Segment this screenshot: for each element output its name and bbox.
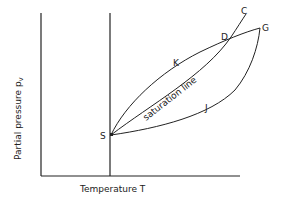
- y-axis-label: Partial pressure pv: [13, 77, 25, 160]
- label-G: G: [262, 23, 269, 33]
- diagram-canvas: S K D C G J saturation line Temperature …: [0, 0, 284, 202]
- label-C: C: [241, 6, 247, 16]
- y-axis-label-subscript: v: [17, 77, 25, 81]
- label-S: S: [100, 131, 106, 141]
- label-saturation-line: saturation line: [141, 74, 199, 122]
- label-K: K: [173, 58, 180, 68]
- x-axis-label: Temperature T: [79, 184, 146, 194]
- point-S-marker: [110, 133, 113, 136]
- label-J: J: [204, 103, 208, 113]
- label-D: D: [221, 32, 228, 42]
